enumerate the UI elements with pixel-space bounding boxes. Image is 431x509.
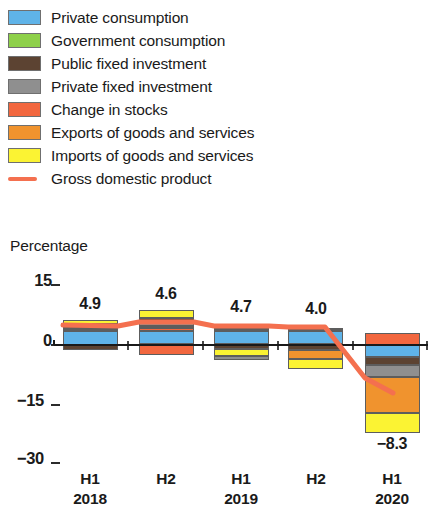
bar-segment-imports-0: [63, 320, 118, 324]
x-tick-label-h2-2019: H2: [286, 470, 346, 488]
y-tick-mark-0: [51, 344, 60, 346]
legend-swatch-public-fixed-investment: [8, 56, 41, 71]
value-label-0: 4.9: [60, 295, 120, 313]
bar-segment-public-fixed-investment-3: [288, 344, 343, 350]
bar-segment-private-fixed-investment-4: [365, 365, 420, 377]
bar-segment-public-fixed-investment-2: [214, 344, 269, 349]
x-tick-label-h1-2019: H1: [211, 470, 271, 488]
bar-segment-private-consumption-0: [63, 331, 118, 345]
bar-segment-private-fixed-investment-1: [139, 322, 194, 326]
legend-swatch-exports: [8, 125, 41, 140]
value-label-4: −8.3: [362, 435, 422, 453]
legend-swatch-imports: [8, 148, 41, 163]
value-label-1: 4.6: [136, 285, 196, 303]
y-tick-label-minus15: −15: [0, 391, 44, 410]
legend-item-exports: Exports of goods and services: [8, 121, 428, 144]
bar-segment-imports-4: [365, 413, 420, 433]
gdp-line: [63, 322, 393, 393]
y-axis-title: Percentage: [10, 237, 88, 255]
bar-segment-change-in-stocks-0: [63, 327, 118, 329]
bar-segment-change-in-stocks-2: [214, 324, 269, 329]
x-tick-label-h1-2018: H1: [60, 470, 120, 488]
bar-segment-private-consumption-1: [139, 331, 194, 344]
bar-segment-change-in-stocks-3: [288, 328, 343, 330]
legend-label-private-fixed-investment: Private fixed investment: [51, 78, 212, 95]
legend-label-imports: Imports of goods and services: [51, 147, 253, 164]
legend-label-public-fixed-investment: Public fixed investment: [51, 55, 206, 72]
bar-segment-change-in-stocks-1a: [139, 328, 194, 331]
bar-segment-imports-2: [214, 349, 269, 356]
bar-segment-government-consumption-0: [63, 329, 118, 331]
bar-segment-government-consumption-2: [214, 329, 269, 331]
legend-item-private-consumption: Private consumption: [8, 6, 428, 29]
y-tick-mark-minus30: [51, 462, 60, 464]
bar-segment-change-in-stocks-4: [365, 333, 420, 345]
bar-segment-exports-3: [288, 350, 343, 359]
y-tick-label-minus30: −30: [0, 449, 44, 468]
x-tick-label-h1-2020: H1: [362, 470, 422, 488]
bar-segment-public-fixed-investment-4: [365, 357, 420, 365]
legend-item-gross-domestic-product: Gross domestic product: [8, 167, 428, 190]
bar-segment-private-consumption-2: [214, 331, 269, 344]
bar-segment-private-consumption-4: [365, 345, 420, 357]
bar-segment-private-fixed-investment-2: [214, 356, 269, 360]
bar-segment-imports-3: [288, 359, 343, 369]
legend-item-government-consumption: Government consumption: [8, 29, 428, 52]
bar-segment-private-fixed-investment-0: [63, 330, 118, 332]
legend-label-private-consumption: Private consumption: [51, 9, 189, 26]
bar-segment-exports-0: [63, 324, 118, 327]
legend-item-change-in-stocks: Change in stocks: [8, 98, 428, 121]
legend-label-change-in-stocks: Change in stocks: [51, 101, 168, 118]
value-label-3: 4.0: [286, 300, 346, 318]
bar-segment-exports-4: [365, 377, 420, 413]
legend-line-gross-domestic-product: [8, 171, 41, 186]
x-tick-label-h2-2018: H2: [136, 470, 196, 488]
value-label-2: 4.7: [211, 298, 271, 316]
x-tick-label-year-2018: 2018: [60, 490, 120, 508]
legend-item-private-fixed-investment: Private fixed investment: [8, 75, 428, 98]
chart-legend: Private consumption Government consumpti…: [8, 6, 428, 190]
x-tick-label-year-2019: 2019: [211, 490, 271, 508]
legend-item-public-fixed-investment: Public fixed investment: [8, 52, 428, 75]
y-tick-label-0: 0: [6, 331, 52, 350]
bar-segment-public-fixed-investment-1: [139, 318, 194, 322]
bar-segment-change-in-stocks-1b: [139, 344, 194, 355]
legend-label-gross-domestic-product: Gross domestic product: [51, 170, 211, 187]
x-tick-label-year-2020: 2020: [362, 490, 422, 508]
y-tick-label-15: 15: [6, 271, 52, 290]
legend-swatch-change-in-stocks: [8, 102, 41, 117]
bar-segment-imports-1: [139, 310, 194, 318]
y-tick-mark-15: [51, 284, 60, 286]
bar-segment-private-consumption-3: [288, 331, 343, 344]
legend-label-exports: Exports of goods and services: [51, 124, 254, 141]
legend-label-government-consumption: Government consumption: [51, 32, 225, 49]
legend-item-imports: Imports of goods and services: [8, 144, 428, 167]
y-tick-mark-minus15: [51, 404, 60, 406]
legend-swatch-government-consumption: [8, 33, 41, 48]
bar-segment-government-consumption-1: [139, 326, 194, 328]
legend-swatch-private-fixed-investment: [8, 79, 41, 94]
bar-segment-public-fixed-investment-0: [63, 345, 118, 350]
bar-segment-government-consumption-3: [288, 330, 343, 332]
legend-swatch-private-consumption: [8, 10, 41, 25]
